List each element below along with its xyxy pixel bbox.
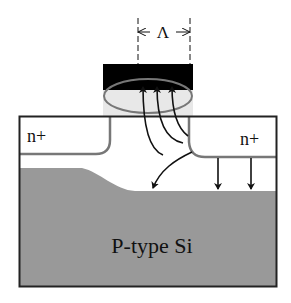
mosfet-cross-section-diagram: Λ n+ n+ P-type Si <box>0 0 291 303</box>
gate-electrode <box>103 64 193 90</box>
gate-oxide <box>103 89 193 116</box>
substrate-label: P-type Si <box>111 233 192 258</box>
substrate-region <box>19 116 276 287</box>
dimension-indicator: Λ <box>138 18 190 64</box>
dimension-label: Λ <box>157 23 170 42</box>
drain-label: n+ <box>240 129 259 149</box>
source-label: n+ <box>27 126 46 146</box>
